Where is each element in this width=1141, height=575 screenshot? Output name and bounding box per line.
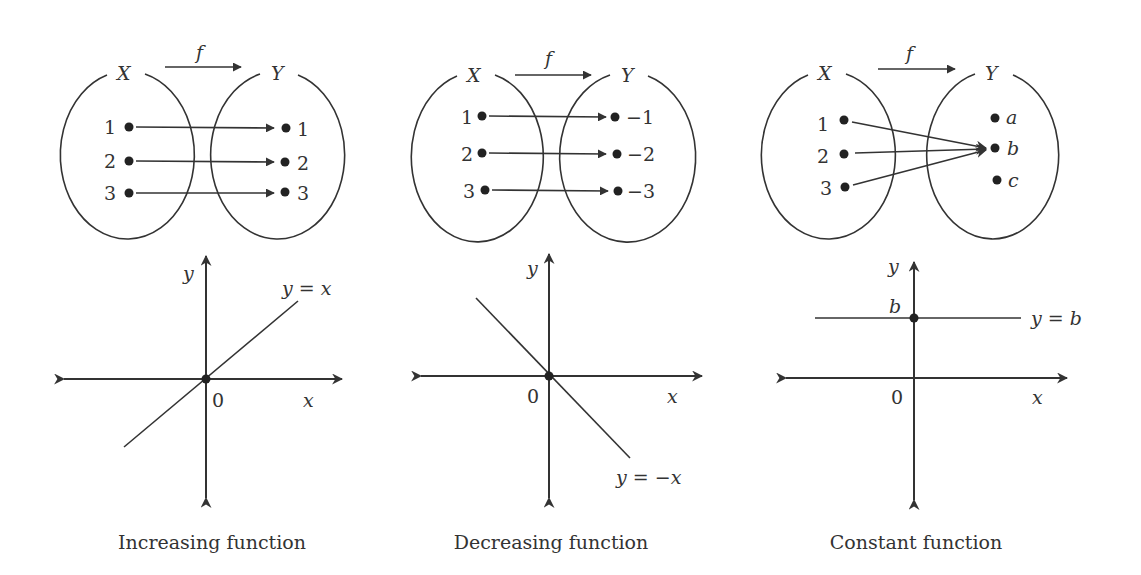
panel-decreasing: X Y f 1 2 3 −1 −2 −3 y	[411, 47, 702, 553]
origin-label: 0	[212, 389, 224, 411]
line-label: y = b	[1030, 307, 1082, 329]
domain-set-x	[411, 75, 543, 242]
domain-label: X	[816, 62, 833, 84]
domain-point	[478, 112, 487, 121]
f-label: f	[543, 47, 555, 69]
codomain-point	[993, 176, 1002, 185]
intercept-label: b	[889, 295, 901, 317]
codomain-point	[991, 114, 1000, 123]
mapping-arrow	[136, 161, 274, 162]
x-axis-label: x	[1032, 386, 1043, 408]
mapping-arrow	[492, 190, 608, 191]
function-types-figure: X Y f 1 2 3 1 2 3	[0, 0, 1141, 575]
codomain-point	[613, 150, 622, 159]
domain-element: 3	[820, 177, 832, 199]
origin-point	[202, 375, 211, 384]
origin-point	[545, 372, 554, 381]
y-axis-label: y	[182, 262, 194, 284]
mapping-arrow	[136, 127, 274, 128]
domain-point	[125, 157, 134, 166]
line-y-equals-x	[124, 301, 298, 447]
codomain-point	[611, 113, 620, 122]
domain-point	[125, 189, 134, 198]
codomain-element: b	[1007, 137, 1019, 159]
domain-point	[478, 149, 487, 158]
mapping-arrow	[489, 153, 606, 154]
panel-constant: X Y f 1 2 3 a b c y b	[761, 42, 1082, 553]
graph-constant: y b x 0 y = b Constant function	[786, 255, 1082, 553]
codomain-element: 1	[297, 118, 309, 140]
f-label: f	[194, 41, 206, 63]
caption-decreasing: Decreasing function	[454, 531, 649, 553]
graph-decreasing: y x 0 y = −x Decreasing function	[421, 254, 702, 553]
domain-point	[841, 183, 850, 192]
codomain-label: Y	[985, 62, 1000, 84]
codomain-point	[614, 187, 623, 196]
codomain-label: Y	[621, 64, 636, 86]
caption-constant: Constant function	[830, 531, 1002, 553]
codomain-element: −3	[627, 180, 655, 202]
mapping-diagram-constant: X Y f 1 2 3 a b c	[761, 42, 1058, 239]
codomain-label: Y	[271, 62, 286, 84]
domain-point	[840, 116, 849, 125]
codomain-point	[991, 144, 1000, 153]
caption-increasing: Increasing function	[118, 531, 306, 553]
domain-label: X	[115, 62, 132, 84]
mapping-diagram-increasing: X Y f 1 2 3 1 2 3	[60, 41, 344, 239]
codomain-set-y	[927, 74, 1059, 239]
origin-label: 0	[891, 386, 903, 408]
domain-element: 2	[461, 143, 473, 165]
domain-label: X	[465, 64, 482, 86]
origin-label: 0	[527, 385, 539, 407]
domain-point	[840, 150, 849, 159]
codomain-point	[281, 158, 290, 167]
line-label: y = −x	[615, 466, 682, 488]
y-axis-label: y	[526, 257, 538, 279]
domain-point	[125, 123, 134, 132]
domain-element: 1	[461, 106, 473, 128]
codomain-element: −1	[626, 106, 654, 128]
line-label: y = x	[281, 277, 332, 299]
codomain-element: 2	[297, 152, 309, 174]
mapping-arrow	[853, 150, 986, 185]
domain-element: 3	[104, 182, 116, 204]
graph-increasing: y x 0 y = x Increasing function	[64, 256, 342, 553]
domain-set-x	[60, 74, 194, 239]
domain-element: 2	[104, 150, 116, 172]
domain-element: 1	[817, 113, 829, 135]
mapping-arrow	[855, 149, 986, 153]
mapping-arrow	[489, 116, 606, 117]
codomain-element: a	[1006, 106, 1017, 128]
panel-increasing: X Y f 1 2 3 1 2 3	[60, 41, 344, 553]
x-axis-label: x	[667, 385, 678, 407]
mapping-arrow	[852, 122, 986, 148]
mapping-diagram-decreasing: X Y f 1 2 3 −1 −2 −3	[411, 47, 695, 242]
x-axis-label: x	[303, 389, 314, 411]
codomain-set-y	[211, 74, 345, 239]
domain-element: 3	[463, 180, 475, 202]
domain-element: 1	[104, 116, 116, 138]
domain-point	[481, 186, 490, 195]
codomain-point	[282, 124, 291, 133]
intercept-point	[910, 314, 919, 323]
codomain-element: 3	[297, 182, 309, 204]
f-label: f	[904, 42, 916, 64]
codomain-element: c	[1008, 169, 1019, 191]
y-axis-label: y	[887, 255, 899, 277]
codomain-element: −2	[627, 143, 655, 165]
codomain-point	[281, 188, 290, 197]
domain-element: 2	[817, 145, 829, 167]
